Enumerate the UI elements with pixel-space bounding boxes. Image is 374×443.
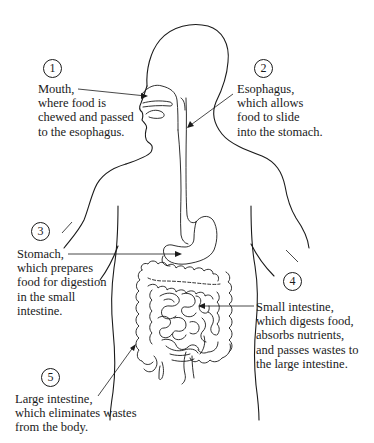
callout-line: intestine. bbox=[17, 304, 107, 318]
callout-line: which digests food, bbox=[256, 314, 358, 328]
callout-line: absorbs nutrients, bbox=[256, 328, 358, 342]
stomach bbox=[162, 216, 217, 266]
esophagus-and-mouth bbox=[142, 85, 196, 244]
callout-line: which eliminates wastes bbox=[15, 406, 137, 420]
callout-line: where food is bbox=[38, 96, 134, 110]
callout-line: Mouth, bbox=[38, 82, 134, 96]
callout-number-2: 2 bbox=[254, 59, 273, 78]
callout-small-intestine: Small intestine, which digests food, abs… bbox=[256, 300, 358, 371]
callout-esophagus: Esophagus, which allows food to slide in… bbox=[237, 82, 323, 139]
callout-line: food to slide bbox=[237, 110, 323, 124]
callout-line: from the body. bbox=[15, 420, 137, 434]
callout-stomach: Stomach, which prepares food for digesti… bbox=[17, 247, 107, 318]
callout-line: food for digestion bbox=[17, 275, 107, 289]
callout-line: Small intestine, bbox=[256, 300, 358, 314]
callout-line: in the small bbox=[17, 290, 107, 304]
callout-number-1: 1 bbox=[43, 59, 62, 78]
large-intestine bbox=[136, 261, 232, 384]
callout-line: into the stomach. bbox=[237, 125, 323, 139]
small-intestine bbox=[158, 293, 216, 361]
callout-line: Stomach, bbox=[17, 247, 107, 261]
callout-line: which allows bbox=[237, 96, 323, 110]
callout-number-3: 3 bbox=[31, 222, 50, 241]
callout-line: Large intestine, bbox=[15, 392, 137, 406]
callout-line: which prepares bbox=[17, 261, 107, 275]
callout-line: and passes wastes to bbox=[256, 343, 358, 357]
callout-large-intestine: Large intestine, which eliminates wastes… bbox=[15, 392, 137, 435]
callout-line: chewed and passed bbox=[38, 110, 134, 124]
callout-line: the large intestine. bbox=[256, 357, 358, 371]
callout-number-5: 5 bbox=[41, 368, 60, 387]
callout-line: Esophagus, bbox=[237, 82, 323, 96]
callout-mouth: Mouth, where food is chewed and passed t… bbox=[38, 82, 134, 139]
callout-line: to the esophagus. bbox=[38, 125, 134, 139]
callout-number-4: 4 bbox=[283, 272, 302, 291]
